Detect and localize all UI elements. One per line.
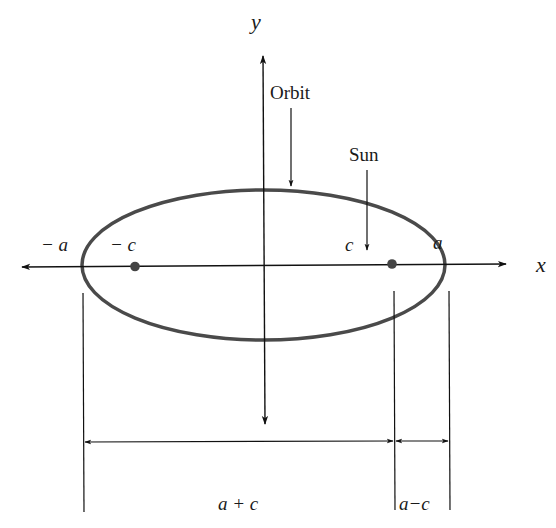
focus-left [130,262,140,272]
guide-line-c [394,291,395,510]
y-axis-label: y [249,9,261,34]
neg-a-label: − a [41,234,68,255]
x-axis-label: x [535,252,546,277]
neg-c-label: − c [110,234,137,255]
a-label: a [433,232,443,253]
focus-sun [387,259,397,269]
y-axis [263,56,265,424]
c-label: c [345,234,354,255]
ellipse-orbit-diagram: y x Orbit Sun − a − c c a a + c a−c [0,0,556,528]
guide-line-neg-a [83,293,84,512]
a-minus-c-label: a−c [399,493,430,514]
sun-label: Sun [349,144,379,165]
orbit-label: Orbit [270,82,311,103]
dimension-a-plus-c [85,441,393,442]
guide-line-a [449,291,450,510]
a-plus-c-label: a + c [218,493,259,514]
